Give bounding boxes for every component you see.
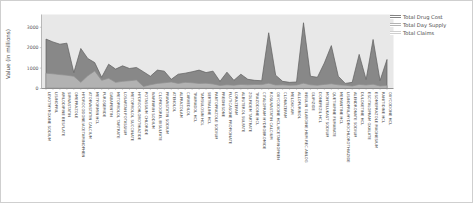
legend-label: Total Day Supply (403, 22, 446, 28)
chart-figure: 0100020003000LEVOTHYROXINE SODIUMLISINOP… (0, 0, 473, 203)
y-axis-title: Value (in millions) (5, 29, 11, 79)
legend-swatch-icon (390, 31, 401, 36)
x-axis-tick-label: ROSUVASTATIN CALCIUM (269, 92, 273, 140)
x-axis-tick-label: MEMANTINE HCL (339, 92, 343, 125)
x-axis-tick-label: OMEPRAZOLE (74, 92, 78, 119)
legend-item: Total Day Supply (390, 22, 446, 28)
x-axis-tick-label: OXYCODONE HCL (388, 92, 392, 126)
x-axis-tick-label: LISINOPRIL/HYDROCHLOROTHIAZIDE (346, 92, 350, 163)
x-axis-tick-label: ALPRAZOLAM (179, 92, 183, 118)
x-axis-tick-label: DONEPEZIL HCL (318, 92, 322, 124)
x-axis-tick-label: PRAVASTATIN SODIUM (165, 92, 169, 134)
y-axis-tick-label: 0 (36, 86, 39, 91)
x-axis-tick-label: TRAZODONE HCL (255, 91, 259, 126)
x-axis-tick-label: ZOLPIDEM TARTRATE (248, 92, 252, 133)
x-axis-tick-label: SIMVASTATIN (67, 92, 71, 117)
x-axis-tick-label: CLOPIDOGREL BISULFATE (158, 92, 162, 141)
x-axis-tick-label: OXYCODONE HCL/ACETAMINOPHEN (276, 92, 280, 160)
legend-swatch-icon (390, 23, 401, 28)
chart-legend: Total Drug CostTotal Day SupplyTotal Cla… (390, 14, 446, 36)
x-axis-tick-label: ATORVASTATIN CALCIUM (88, 92, 92, 139)
x-axis-tick-label: DULOXETINE HCL (360, 92, 364, 126)
y-axis-tick-label: 3000 (27, 25, 39, 30)
x-axis-tick-label: POTASSIUM CHLORIDE (144, 92, 148, 136)
legend-label: Total Drug Cost (403, 14, 443, 20)
x-axis-tick-label: ESCITALOPRAM OXALATE (367, 92, 371, 140)
x-axis-tick-label: CARVEDILOL (186, 92, 190, 117)
x-axis-tick-label: FLUTICASONE PROPIONATE (228, 92, 232, 145)
x-axis-tick-label: AMLODIPINE BESYLATE (61, 92, 65, 137)
x-axis-tick-label: CLONAZEPAM (283, 92, 287, 118)
x-axis-tick-label: MELOXICAM (290, 92, 294, 115)
x-axis-tick-label: LORAZEPAM (234, 92, 238, 115)
x-axis-tick-label: LEVOTHYROXINE SODIUM (47, 92, 51, 141)
x-axis-tick-label: CITALOPRAM HYDROBROMIDE (262, 92, 266, 150)
x-axis-tick-label: METOPROLOL SUCCINATE (130, 92, 134, 142)
legend-label: Total Claims (403, 30, 434, 36)
x-axis-tick-label: GLIPIZIDE (311, 92, 315, 112)
y-axis-tick-label: 2000 (27, 45, 39, 50)
x-axis-tick-label: TRAMADOL HCL (193, 91, 197, 123)
x-axis-tick-label: WARFARIN SODIUM (151, 92, 155, 129)
x-axis-tick-label: PANTOPRAZOLE SODIUM (214, 92, 218, 140)
y-axis-tick-label: 1000 (27, 66, 39, 71)
x-axis-tick-label: SERTRALINE HCL (207, 92, 211, 125)
x-axis-tick-label: ALLOPURINOL (297, 92, 301, 120)
legend-item: Total Claims (390, 30, 446, 36)
x-axis-tick-label: ALBUTEROL SULFATE (241, 92, 245, 133)
x-axis-tick-label: LISINOPRIL (54, 92, 58, 114)
x-axis-tick-label: QUETIAPINE FUMARATE (332, 92, 336, 138)
x-axis-tick-label: METOPROLOL TARTRATE (116, 92, 120, 139)
x-axis-tick-label: ATENOLOL (172, 92, 176, 113)
x-axis-tick-label: METFORMIN HCL (95, 92, 99, 125)
x-axis-tick-label: GABAPENTIN (109, 92, 113, 117)
x-axis-tick-label: HYDROCODONE/ACETAMINOPHEN (81, 92, 85, 157)
x-axis-tick-label: FUROSEMIDE (102, 92, 106, 118)
x-axis-tick-label: ALENDRONATE SODIUM (353, 92, 357, 138)
x-axis-tick-label: RANITIDINE HCL (381, 92, 385, 124)
x-axis-tick-label: INSULIN GLARGINE,HUM.REC.ANLOG (304, 92, 308, 163)
x-axis-tick-label: ESOMEPRAZOLE MAGNESIUM (374, 92, 378, 148)
x-axis-tick-label: MONTELUKAST SODIUM (325, 92, 329, 138)
legend-item: Total Drug Cost (390, 14, 446, 20)
x-axis-tick-label: LOSARTAN POTASSIUM (123, 92, 127, 136)
x-axis-tick-label: PREDNISONE (221, 92, 225, 118)
x-axis-tick-label: HYDROCHLOROTHIAZIDE (137, 92, 141, 141)
x-axis-tick-label: TAMSULOSIN HCL (200, 91, 204, 127)
legend-swatch-icon (390, 15, 401, 20)
